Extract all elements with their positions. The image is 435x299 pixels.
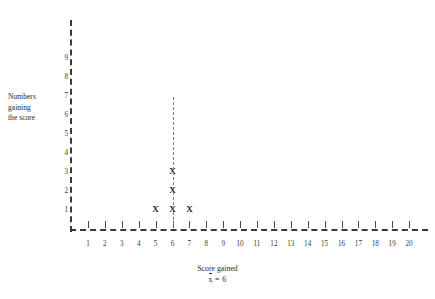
x-axis-tick <box>392 221 393 228</box>
x-axis-tick <box>122 221 123 228</box>
x-axis-tick <box>375 221 376 228</box>
x-axis-caption: Score gained x = 6 <box>0 264 435 285</box>
y-axis-tick-label: 1 <box>52 207 68 214</box>
x-axis-tick <box>139 221 140 228</box>
x-axis-line <box>70 229 428 231</box>
y-axis-tick-label: 7 <box>52 93 68 100</box>
y-axis-tick-label: 8 <box>52 74 68 81</box>
y-axis-tick-label: 3 <box>52 169 68 176</box>
x-axis-tick <box>409 221 410 228</box>
x-axis-tick <box>342 221 343 228</box>
x-axis-tick <box>189 221 190 228</box>
dot-plot-figure: Numbers gaining the score 123456789 1234… <box>0 0 435 299</box>
y-axis-tick-label: 6 <box>52 112 68 119</box>
y-axis-tick-label: 4 <box>52 150 68 157</box>
x-axis-tick <box>358 221 359 228</box>
x-axis-tick <box>223 221 224 228</box>
x-axis-tick <box>206 221 207 228</box>
x-axis-tick <box>308 221 309 228</box>
x-axis-tick-label: 20 <box>399 240 419 248</box>
y-axis-tick-labels: 123456789 <box>0 0 68 299</box>
x-axis-tick <box>240 221 241 228</box>
y-axis-tick-label: 9 <box>52 55 68 62</box>
y-axis-line <box>70 20 72 232</box>
x-bar-symbol: x <box>208 275 212 286</box>
mean-value-text: = 6 <box>213 275 227 284</box>
x-axis-title: Score gained <box>0 264 435 275</box>
x-axis-tick <box>274 221 275 228</box>
x-axis-tick <box>325 221 326 228</box>
x-axis-tick <box>105 221 106 228</box>
data-marker-x: X <box>149 205 163 214</box>
x-axis-tick <box>156 221 157 228</box>
mean-statistic: x = 6 <box>0 275 435 286</box>
data-marker-x: X <box>182 205 196 214</box>
x-axis-tick <box>257 221 258 228</box>
x-axis-tick <box>291 221 292 228</box>
x-axis-tick <box>88 221 89 228</box>
y-axis-tick-label: 2 <box>52 188 68 195</box>
mean-guide-line <box>173 97 174 226</box>
y-axis-tick-label: 5 <box>52 131 68 138</box>
